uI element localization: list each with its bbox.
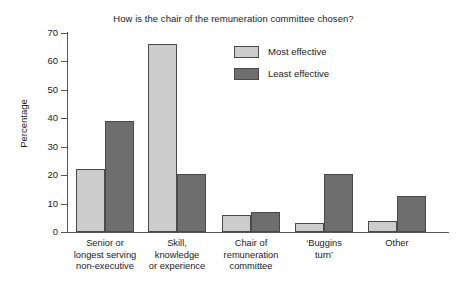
y-axis-tick	[61, 147, 68, 148]
y-axis-tick	[61, 90, 68, 91]
chart-title: How is the chair of the remuneration com…	[0, 13, 467, 24]
y-axis-tick-label: 0	[10, 226, 58, 237]
y-axis-tick	[61, 175, 68, 176]
legend-item-most-effective: Most effective	[234, 42, 329, 61]
legend-label-least-effective: Least effective	[268, 68, 329, 79]
bar-most-effective	[148, 44, 177, 232]
y-axis-tick	[61, 118, 68, 119]
bar-most-effective	[222, 215, 251, 232]
bar-most-effective	[76, 169, 105, 232]
legend-item-least-effective: Least effective	[234, 64, 329, 83]
bar-most-effective	[368, 221, 397, 232]
bar-least-effective	[324, 174, 353, 232]
y-axis-tick-label: 60	[10, 55, 58, 66]
chart-legend: Most effective Least effective	[234, 42, 329, 86]
legend-swatch-icon-least-effective	[234, 68, 259, 80]
y-axis-tick	[61, 232, 68, 233]
y-axis-title: Percentage	[18, 79, 29, 169]
bar-group	[76, 33, 134, 232]
bar-chart: How is the chair of the remuneration com…	[0, 0, 467, 289]
legend-swatch-icon-most-effective	[234, 46, 259, 58]
x-axis-label-line: committee	[206, 261, 296, 273]
y-axis-tick	[61, 33, 68, 34]
y-axis-tick-label: 70	[10, 27, 58, 38]
y-axis-tick-label: 20	[10, 169, 58, 180]
y-axis-tick-label: 10	[10, 198, 58, 209]
x-axis-line	[67, 232, 449, 233]
bar-least-effective	[397, 196, 426, 232]
y-axis-tick	[61, 61, 68, 62]
bar-group	[368, 33, 426, 232]
bar-most-effective	[295, 223, 324, 232]
legend-label-most-effective: Most effective	[268, 46, 326, 57]
x-axis-label-line: turn’	[279, 250, 369, 262]
bar-group	[148, 33, 206, 232]
bar-least-effective	[251, 212, 280, 232]
x-axis-label-line: Other	[352, 238, 442, 250]
bar-least-effective	[105, 121, 134, 232]
y-axis-tick	[61, 204, 68, 205]
x-axis-label: Other	[352, 238, 442, 250]
bar-least-effective	[177, 174, 206, 232]
